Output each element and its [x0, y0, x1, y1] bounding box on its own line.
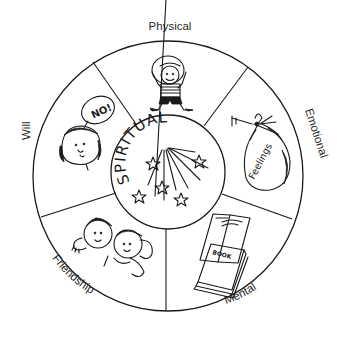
emotional-feelings-bag-icon: Feelings	[232, 114, 290, 190]
friendship-children-icon	[72, 218, 152, 277]
divider-friendship-will	[41, 193, 116, 217]
label-will: Will	[20, 121, 32, 140]
label-physical: Physical	[149, 20, 192, 32]
feelings-text: Feelings	[246, 141, 274, 181]
book-text: BOOK	[212, 248, 233, 260]
wheel-diagram: Physical Emotional Will Friendship Menta…	[0, 0, 337, 339]
divider-physical-emotional	[204, 67, 248, 126]
label-friendship-path: Friendship	[50, 252, 96, 296]
will-child-icon: NO!	[60, 91, 119, 170]
label-friendship: Friendship	[50, 252, 96, 296]
physical-child-icon	[150, 56, 193, 111]
mental-books-icon: BOOK	[194, 214, 250, 298]
label-emotional: Emotional	[303, 107, 330, 159]
